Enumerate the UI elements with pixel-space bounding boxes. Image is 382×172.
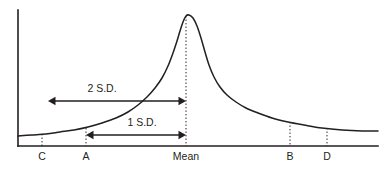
distribution-chart-canvas: 2 S.D. 1 S.D. C A Mean B D	[0, 0, 382, 172]
x-tick-label-d: D	[323, 150, 331, 162]
one-sd-label: 1 S.D.	[127, 116, 156, 128]
distribution-diagram: 2 S.D. 1 S.D. C A Mean B D	[0, 0, 382, 172]
distribution-curve	[18, 15, 378, 136]
tick-dotted-lines-group	[42, 16, 327, 146]
two-sd-arrowhead-right	[179, 97, 187, 105]
two-sd-arrowhead-left	[48, 97, 56, 105]
one-sd-arrowhead-left	[86, 131, 94, 139]
x-tick-label-b: B	[286, 150, 293, 162]
one-sd-arrow	[86, 131, 186, 139]
two-sd-arrow	[48, 97, 186, 105]
x-tick-label-c: C	[38, 150, 46, 162]
x-tick-label-a: A	[82, 150, 89, 162]
x-tick-label-mean: Mean	[173, 150, 199, 162]
one-sd-arrowhead-right	[179, 131, 187, 139]
two-sd-label: 2 S.D.	[87, 82, 116, 94]
